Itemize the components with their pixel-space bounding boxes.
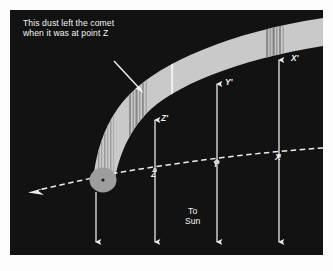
figure-root: This dust left the comet when it was at … (0, 0, 333, 271)
nucleus-center-dot (101, 178, 104, 181)
diagram-panel: This dust left the comet when it was at … (10, 10, 323, 255)
comet-nucleus (90, 168, 117, 193)
diagram-canvas (10, 10, 323, 255)
